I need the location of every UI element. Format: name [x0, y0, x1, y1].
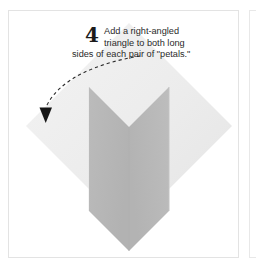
- left-petal-shape: [89, 87, 129, 251]
- instruction-line-1: Add a right-angled: [104, 26, 235, 38]
- instruction-panel: 4 Add a right-angled triangle to both lo…: [8, 10, 239, 258]
- instruction-line-3: sides of each pair of "petals.": [72, 49, 235, 61]
- instruction-text: Add a right-angled triangle to both long…: [85, 26, 235, 61]
- arrowhead-icon: [40, 108, 53, 124]
- right-petal-shape: [129, 87, 169, 251]
- arrow-curve-path: [46, 56, 140, 107]
- adjacent-panel-partial: [249, 10, 256, 258]
- arrow-group: [40, 56, 141, 123]
- page-root: 4 Add a right-angled triangle to both lo…: [0, 0, 256, 264]
- instruction-line-2: triangle to both long: [104, 38, 235, 50]
